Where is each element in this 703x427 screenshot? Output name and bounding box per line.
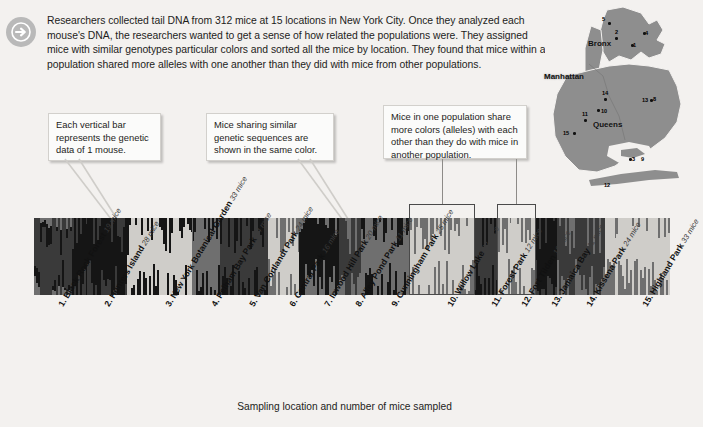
map-dot-4 bbox=[643, 32, 646, 35]
map-dot-11 bbox=[584, 119, 587, 122]
map-marker-8: 8 bbox=[653, 96, 656, 102]
map-marker-13: 13 bbox=[642, 97, 648, 103]
callout-same-color: Mice sharing similar genetic sequences a… bbox=[206, 113, 334, 161]
map-marker-14: 14 bbox=[602, 90, 608, 96]
map-dot-1 bbox=[631, 44, 634, 47]
callout-vertical-bar: Each vertical bar represents the genetic… bbox=[48, 113, 161, 161]
x-axis-label-count: 33 mice bbox=[678, 217, 700, 246]
map-marker-15: 15 bbox=[563, 130, 569, 136]
callout-shared-alleles: Mice in one population share more colors… bbox=[383, 105, 527, 159]
callout-shared-alleles-stem-left bbox=[442, 159, 443, 204]
map-marker-3: 3 bbox=[632, 156, 635, 162]
map-marker-9: 9 bbox=[641, 156, 644, 162]
map-dot-10 bbox=[597, 109, 600, 112]
x-axis-labels: 1. Black Rock Forest 19 mice2. Hunters I… bbox=[0, 296, 689, 401]
callout-shared-alleles-stem-right bbox=[516, 159, 517, 204]
map-dot-2 bbox=[615, 37, 618, 40]
map-dot-5 bbox=[608, 22, 611, 25]
map-marker-12: 12 bbox=[604, 182, 610, 188]
map-dot-15 bbox=[573, 132, 576, 135]
map-marker-2: 2 bbox=[615, 29, 618, 35]
ancestry-segment bbox=[668, 218, 670, 233]
map-dot-8 bbox=[650, 99, 653, 102]
map-label-manhattan: Manhattan bbox=[544, 72, 584, 81]
map-marker-11: 11 bbox=[582, 111, 588, 117]
new-york-city-map: Bronx Manhattan Queens 5 2 4 1 14 13 8 1… bbox=[545, 4, 689, 206]
intro-paragraph: Researchers collected tail DNA from 312 … bbox=[47, 14, 547, 72]
x-axis-caption: Sampling location and number of mice sam… bbox=[0, 401, 689, 412]
map-label-bronx: Bronx bbox=[588, 39, 611, 48]
arrow-right-circle-icon bbox=[6, 17, 36, 47]
map-dot-3 bbox=[629, 158, 632, 161]
map-marker-5: 5 bbox=[602, 16, 605, 22]
x-axis-label-count: 33 mice bbox=[226, 175, 248, 204]
map-marker-10: 10 bbox=[601, 108, 607, 114]
map-dot-14 bbox=[604, 98, 607, 101]
map-label-queens: Queens bbox=[593, 120, 622, 129]
